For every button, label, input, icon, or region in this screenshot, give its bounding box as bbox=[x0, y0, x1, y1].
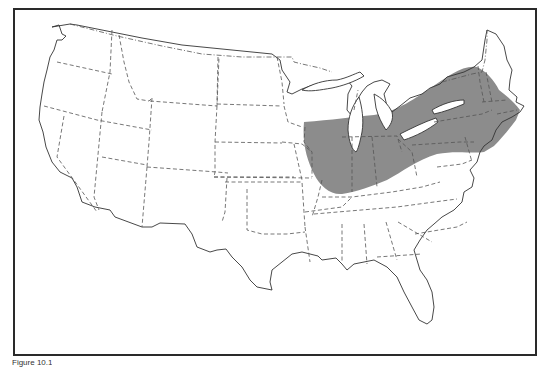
figure-caption: Figure 10.1 bbox=[12, 359, 52, 367]
lake-superior bbox=[302, 72, 364, 91]
us-coastline bbox=[39, 24, 524, 324]
map-frame bbox=[13, 8, 537, 356]
us-map bbox=[15, 10, 535, 354]
